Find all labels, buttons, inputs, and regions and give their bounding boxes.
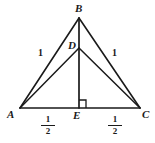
segment-ad [20, 48, 79, 108]
vertex-label-d: D [68, 40, 76, 51]
side-ab-length-label: 1 [38, 48, 43, 58]
segment-ec-length-label: 1 2 [108, 115, 122, 136]
segment-ae-denominator: 2 [41, 126, 55, 136]
vertex-label-e: E [73, 110, 80, 121]
segment-ae-numerator: 1 [41, 115, 55, 125]
segment-ec-denominator: 2 [108, 126, 122, 136]
segment-bc [79, 18, 140, 108]
diagram-canvas [0, 0, 155, 143]
side-bc-length-label: 1 [112, 48, 117, 58]
right-angle-marker-icon [79, 100, 86, 108]
segment-dc [79, 48, 140, 108]
segment-ec-numerator: 1 [108, 115, 122, 125]
vertex-label-b: B [75, 3, 82, 14]
vertex-label-a: A [7, 109, 14, 120]
segment-ae-length-label: 1 2 [41, 115, 55, 136]
geometry-figure: B D A E C 1 1 1 2 1 2 [0, 0, 155, 143]
segment-ab [20, 18, 79, 108]
vertex-label-c: C [142, 109, 149, 120]
